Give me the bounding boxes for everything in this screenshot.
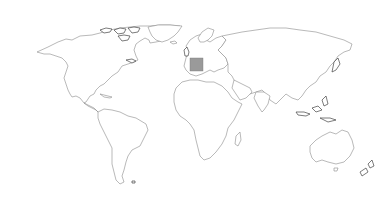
world-map: France (0, 0, 391, 210)
south-america (98, 109, 148, 184)
iceland (170, 41, 177, 44)
australia (310, 130, 354, 164)
falkland-islands (132, 181, 135, 183)
india (254, 92, 270, 112)
caribbean-islands (100, 94, 112, 98)
central-america (84, 103, 100, 114)
new-zealand (360, 160, 374, 176)
world-map-svg (0, 0, 391, 210)
africa (174, 80, 242, 160)
highlighted-region-france[interactable] (190, 58, 203, 71)
southeast-asia-islands (296, 96, 336, 122)
tasmania (334, 168, 338, 171)
madagascar (235, 132, 241, 146)
scandinavia (198, 28, 214, 42)
